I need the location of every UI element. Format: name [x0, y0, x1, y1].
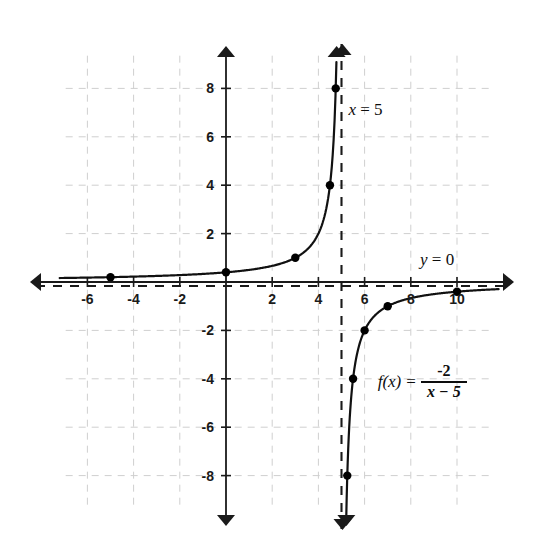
y-tick-label: -2: [202, 322, 215, 338]
formula-fraction: -2 x − 5: [421, 363, 467, 401]
data-point: [343, 471, 351, 479]
function-formula: f(x) = -2 x − 5: [378, 363, 467, 401]
data-point: [332, 84, 340, 92]
x-tick-label: -6: [81, 291, 94, 307]
x-tick-label: 4: [315, 291, 323, 307]
data-point: [360, 326, 368, 334]
data-point: [222, 268, 230, 276]
formula-equals-sign: =: [406, 372, 416, 392]
y-tick-label: 8: [206, 80, 214, 96]
y-tick-label: -6: [202, 419, 215, 435]
data-point: [349, 375, 357, 383]
formula-fx-label: f(x): [378, 372, 402, 392]
x-equals-5-label: x = 5: [347, 100, 382, 119]
x-tick-label: 2: [268, 291, 276, 307]
data-point: [291, 254, 299, 262]
x-tick-label: -4: [127, 291, 140, 307]
y-tick-label: -8: [202, 468, 215, 484]
x-tick-label: -2: [174, 291, 187, 307]
y-tick-label: -4: [202, 371, 215, 387]
y-tick-label: 4: [206, 177, 214, 193]
x-tick-label: 10: [449, 291, 465, 307]
formula-denominator: x − 5: [427, 384, 461, 401]
y-equals-0-label: y = 0: [418, 250, 454, 269]
data-point: [384, 302, 392, 310]
y-tick-label: 6: [206, 129, 214, 145]
data-point: [106, 273, 114, 281]
x-tick-label: 8: [407, 291, 415, 307]
rational-function-graph: -6-4-22468108642-2-4-6-8 x = 5y = 0: [0, 0, 539, 560]
y-tick-label: 2: [206, 226, 214, 242]
data-point: [326, 181, 334, 189]
formula-numerator: -2: [437, 363, 450, 380]
x-tick-label: 6: [361, 291, 369, 307]
graph-figure: -6-4-22468108642-2-4-6-8 x = 5y = 0 f(x)…: [0, 0, 539, 560]
